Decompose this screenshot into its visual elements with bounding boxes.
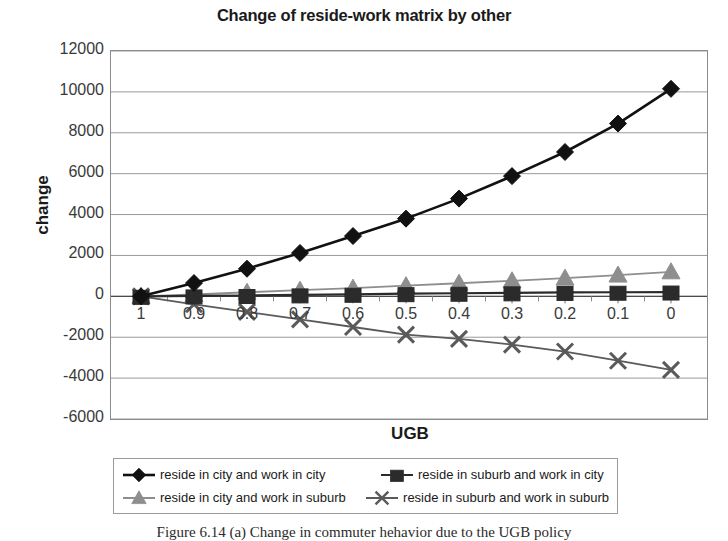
data-point-marker-diamond <box>663 80 680 97</box>
y-tick-label: 8000 <box>4 123 104 139</box>
x-axis-title: UGB <box>110 424 710 444</box>
y-tick-label: -6000 <box>4 409 104 425</box>
chart-title: Change of reside-work matrix by other <box>0 6 728 25</box>
data-point-marker-diamond <box>292 244 309 261</box>
legend-key-diamond-icon <box>122 467 156 483</box>
data-point-marker-diamond <box>504 168 521 185</box>
x-tick-label: 1 <box>111 306 171 322</box>
x-tick-label: 0.7 <box>270 306 330 322</box>
legend-label-1: reside in suburb and work in city <box>418 467 604 482</box>
legend-row-1: reside in city and work in city reside i… <box>122 463 609 486</box>
data-point-marker-cross <box>610 353 626 369</box>
y-tick-label: -2000 <box>4 327 104 343</box>
data-point-marker-square <box>292 289 308 303</box>
data-point-marker-diamond <box>557 143 574 160</box>
data-point-marker-diamond <box>186 275 203 292</box>
data-point-marker-triangle <box>662 263 680 279</box>
x-tick-label: 0.1 <box>588 306 648 322</box>
data-point-marker-square <box>610 286 626 300</box>
series-line <box>141 89 671 297</box>
data-point-marker-cross <box>663 362 679 378</box>
legend-label-0: reside in city and work in city <box>160 467 325 482</box>
x-tick-label: 0.8 <box>217 306 277 322</box>
x-tick-label: 0.2 <box>535 306 595 322</box>
legend-key-triangle-icon <box>122 490 156 506</box>
data-point-marker-diamond <box>398 210 415 227</box>
y-tick-label: 2000 <box>4 245 104 261</box>
y-tick-label: -4000 <box>4 368 104 384</box>
data-point-marker-diamond <box>610 115 627 132</box>
x-tick-label: 0.9 <box>164 306 224 322</box>
y-tick-label: 6000 <box>4 164 104 180</box>
data-point-marker-square <box>663 286 679 300</box>
data-point-marker-square <box>451 287 467 301</box>
chart-canvas <box>111 51 707 419</box>
legend-label-2: reside in city and work in suburb <box>160 490 346 505</box>
data-point-marker-diamond <box>132 468 146 482</box>
y-tick-label: 0 <box>4 286 104 302</box>
legend-key-cross-icon <box>365 490 399 506</box>
x-tick-label: 0.3 <box>482 306 542 322</box>
x-tick-label: 0 <box>641 306 701 322</box>
legend-label-3: reside in suburb and work in suburb <box>403 490 609 505</box>
legend-item-3[interactable]: reside in suburb and work in suburb <box>365 490 609 506</box>
series-1 <box>133 286 679 304</box>
x-tick-label: 0.4 <box>429 306 489 322</box>
y-tick-label: 10000 <box>4 82 104 98</box>
legend-item-1[interactable]: reside in suburb and work in city <box>380 467 604 483</box>
data-point-marker-square <box>345 288 361 302</box>
y-tick-label: 12000 <box>4 41 104 57</box>
series-0 <box>133 80 680 305</box>
data-point-marker-square <box>239 290 255 304</box>
legend-row-2: reside in city and work in suburb reside… <box>122 486 609 509</box>
legend-item-2[interactable]: reside in city and work in suburb <box>122 490 365 506</box>
chart-legend: reside in city and work in city reside i… <box>113 458 618 514</box>
plot-area <box>110 50 708 420</box>
data-point-marker-square <box>504 287 520 301</box>
legend-key-square-icon <box>380 467 414 483</box>
figure-caption: Figure 6.14 (a) Change in commuter hehav… <box>0 524 728 541</box>
x-tick-label: 0.5 <box>376 306 436 322</box>
data-point-marker-square <box>557 286 573 300</box>
data-point-marker-diamond <box>239 260 256 277</box>
x-tick-label: 0.6 <box>323 306 383 322</box>
y-tick-label: 4000 <box>4 205 104 221</box>
data-point-marker-diamond <box>345 228 362 245</box>
data-point-marker-square <box>391 470 404 481</box>
legend-item-0[interactable]: reside in city and work in city <box>122 467 380 483</box>
data-point-marker-diamond <box>451 190 468 207</box>
data-point-marker-square <box>398 288 414 302</box>
